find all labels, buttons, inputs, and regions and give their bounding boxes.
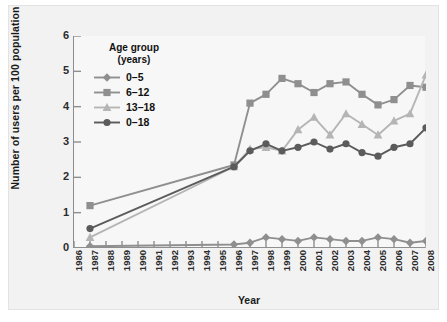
legend-item-label: 13–18 — [126, 101, 155, 113]
data-marker — [374, 101, 381, 108]
series-0-18 — [86, 124, 426, 232]
data-marker — [374, 153, 381, 160]
data-marker — [310, 233, 318, 241]
x-tick-label: 2004 — [361, 250, 372, 290]
data-marker — [246, 147, 253, 154]
series-0-5 — [86, 233, 426, 248]
legend-title-line-2: (years) — [93, 54, 175, 66]
x-tick-label: 2006 — [393, 250, 404, 290]
data-marker — [342, 109, 351, 117]
legend-swatch-icon — [93, 70, 121, 83]
x-tick-label: 1997 — [249, 250, 260, 290]
data-marker — [406, 239, 414, 247]
data-marker — [406, 140, 413, 147]
data-marker — [326, 235, 334, 243]
data-marker — [422, 237, 426, 245]
data-marker — [262, 233, 270, 241]
data-marker — [230, 240, 238, 248]
y-tick-label: 5 — [47, 65, 69, 76]
x-tick-label: 1990 — [137, 250, 148, 290]
data-marker — [246, 100, 253, 107]
data-marker — [422, 70, 426, 78]
x-tick-label: 2003 — [345, 250, 356, 290]
data-marker — [86, 225, 93, 232]
x-tick-label: 2000 — [297, 250, 308, 290]
x-tick-label: 2007 — [409, 250, 420, 290]
data-marker — [342, 237, 350, 245]
data-marker — [358, 149, 365, 156]
legend-title-line-1: Age group — [93, 42, 175, 54]
legend-entries: 0–56–1213–180–18 — [93, 69, 213, 129]
data-marker — [278, 75, 285, 82]
x-tick-label: 1994 — [201, 250, 212, 290]
data-marker — [342, 78, 349, 85]
legend-item-label: 0–18 — [126, 116, 149, 128]
data-marker — [278, 235, 286, 243]
figure-panel: Number of users per 100 population 01234… — [8, 5, 439, 310]
legend-title: Age group (years) — [93, 42, 175, 66]
x-tick-label: 2008 — [425, 250, 436, 290]
data-marker — [358, 237, 366, 245]
x-tick-label: 1989 — [121, 250, 132, 290]
data-marker — [246, 239, 254, 247]
data-marker — [390, 235, 398, 243]
legend-item-13-18[interactable]: 13–18 — [93, 99, 213, 114]
y-tick-label: 1 — [47, 207, 69, 218]
data-marker — [278, 147, 285, 154]
data-marker — [262, 91, 269, 98]
data-marker — [310, 113, 319, 121]
x-tick-label: 1992 — [169, 250, 180, 290]
y-tick-label: 2 — [47, 171, 69, 182]
x-axis-tick-labels: 1986198719881989199019911992199319941995… — [73, 252, 425, 290]
x-tick-label: 1999 — [281, 250, 292, 290]
legend-item-0-18[interactable]: 0–18 — [93, 114, 213, 129]
x-tick-label: 2005 — [377, 250, 388, 290]
x-tick-label: 1991 — [153, 250, 164, 290]
data-marker — [326, 145, 333, 152]
y-tick-label: 0 — [47, 242, 69, 253]
data-marker — [342, 140, 349, 147]
data-marker — [326, 80, 333, 87]
data-marker — [103, 73, 111, 81]
x-axis-title: Year — [73, 294, 425, 306]
data-marker — [406, 82, 413, 89]
data-marker — [310, 138, 317, 145]
data-marker — [294, 237, 302, 245]
y-axis-title: Number of users per 100 population — [9, 0, 21, 218]
data-marker — [103, 89, 110, 96]
x-tick-label: 1993 — [185, 250, 196, 290]
y-tick-label: 4 — [47, 101, 69, 112]
legend-swatch-icon — [93, 115, 121, 128]
y-tick-label: 3 — [47, 136, 69, 147]
legend-item-label: 0–5 — [126, 71, 144, 83]
y-tick-label: 6 — [47, 30, 69, 41]
chart-legend: Age group (years) 0–56–1213–180–18 — [93, 42, 213, 129]
data-marker — [390, 96, 397, 103]
data-marker — [406, 109, 415, 117]
legend-item-6-12[interactable]: 6–12 — [93, 84, 213, 99]
data-marker — [262, 140, 269, 147]
data-marker — [86, 242, 94, 248]
data-marker — [294, 144, 301, 151]
data-marker — [374, 233, 382, 241]
data-marker — [86, 202, 93, 209]
x-tick-label: 1998 — [265, 250, 276, 290]
data-marker — [358, 91, 365, 98]
legend-swatch-icon — [93, 85, 121, 98]
x-tick-label: 2002 — [329, 250, 340, 290]
x-tick-label: 1996 — [233, 250, 244, 290]
x-tick-label: 1987 — [89, 250, 100, 290]
data-marker — [358, 120, 367, 128]
x-tick-label: 2001 — [313, 250, 324, 290]
x-tick-label: 1986 — [73, 250, 84, 290]
legend-item-label: 6–12 — [126, 86, 149, 98]
data-marker — [230, 163, 237, 170]
data-marker — [103, 119, 110, 126]
x-tick-label: 1995 — [217, 250, 228, 290]
data-marker — [310, 89, 317, 96]
legend-item-0-5[interactable]: 0–5 — [93, 69, 213, 84]
legend-swatch-icon — [93, 100, 121, 113]
x-tick-label: 1988 — [105, 250, 116, 290]
y-axis-tick-labels: 0123456 — [45, 36, 69, 248]
chart-figure: Number of users per 100 population 01234… — [0, 0, 447, 322]
